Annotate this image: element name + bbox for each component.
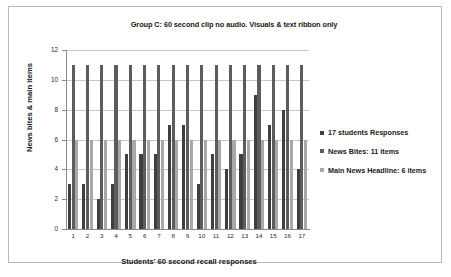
plot-area (66, 50, 309, 229)
bar (143, 65, 146, 229)
x-tick-label: 7 (152, 233, 166, 239)
bar (232, 140, 235, 230)
y-axis-title: News bites & main items (25, 38, 34, 178)
bar (132, 140, 135, 230)
bar (147, 140, 150, 230)
bar-group (180, 50, 194, 229)
bar (100, 65, 103, 229)
bar (68, 184, 71, 229)
y-tick-label: 2 (42, 196, 58, 202)
bar (254, 95, 257, 229)
bar-group (80, 50, 94, 229)
bar (190, 140, 193, 230)
bar (104, 140, 107, 230)
chart-frame: Group C: 60 second clip no audio. Visual… (8, 6, 442, 263)
bar-group (195, 50, 209, 229)
legend-item[interactable]: News Bites: 11 items (320, 148, 445, 156)
bar-group (266, 50, 280, 229)
bar (200, 65, 203, 229)
x-tick-label: 5 (123, 233, 137, 239)
bar (268, 125, 271, 229)
bar (204, 140, 207, 230)
y-axis-line (66, 50, 67, 230)
bar (282, 110, 285, 229)
bar (304, 140, 307, 230)
x-tick-label: 4 (109, 233, 123, 239)
x-axis-title: Students' 60 second recall responses (69, 257, 309, 266)
bar (72, 65, 75, 229)
bar-group (295, 50, 309, 229)
legend-item[interactable]: Main News Headline: 6 items (320, 167, 445, 175)
bar (86, 65, 89, 229)
bar (225, 169, 228, 229)
bar (186, 65, 189, 229)
bar (114, 65, 117, 229)
bar (297, 169, 300, 229)
legend-label: 17 students Responses (328, 129, 408, 137)
chart-title: Group C: 60 second clip no audio. Visual… (69, 20, 399, 29)
bar (197, 184, 200, 229)
bar (229, 65, 232, 229)
y-tick-label: 6 (42, 137, 58, 143)
x-tick-label: 15 (266, 233, 280, 239)
bar (125, 154, 128, 229)
chart-legend: 17 students ResponsesNews Bites: 11 item… (320, 129, 445, 186)
bar-group (137, 50, 151, 229)
bar (82, 184, 85, 229)
legend-swatch-icon (320, 168, 324, 172)
x-tick-label: 9 (180, 233, 194, 239)
bar-group (280, 50, 294, 229)
bar (75, 140, 78, 230)
bar (272, 65, 275, 229)
y-tick-label: 12 (42, 47, 58, 53)
bar-group (66, 50, 80, 229)
y-tick-label: 8 (42, 107, 58, 113)
bar (239, 154, 242, 229)
y-tick-label: 10 (42, 77, 58, 83)
x-tick-label: 16 (280, 233, 294, 239)
y-tick-label: 0 (42, 226, 58, 232)
bar (161, 140, 164, 230)
bar-group (223, 50, 237, 229)
x-tick-label: 14 (252, 233, 266, 239)
bar (257, 65, 260, 229)
bar-group (166, 50, 180, 229)
bar (290, 140, 293, 230)
bar (111, 184, 114, 229)
bar (175, 140, 178, 230)
bar (218, 140, 221, 230)
legend-label: News Bites: 11 items (328, 148, 399, 156)
bar (129, 65, 132, 229)
x-tick-label: 3 (95, 233, 109, 239)
bar (172, 65, 175, 229)
x-tick-label: 17 (295, 233, 309, 239)
x-tick-label: 6 (137, 233, 151, 239)
bar (168, 125, 171, 229)
bar (182, 125, 185, 229)
bar (215, 65, 218, 229)
bar (157, 65, 160, 229)
x-tick-label: 10 (195, 233, 209, 239)
bar-group (238, 50, 252, 229)
legend-label: Main News Headline: 6 items (328, 167, 426, 175)
legend-swatch-icon (320, 131, 324, 135)
y-tick-label: 4 (42, 166, 58, 172)
bar (261, 140, 264, 230)
bar (300, 65, 303, 229)
x-tick-label: 12 (223, 233, 237, 239)
bar (90, 140, 93, 230)
x-tick-label: 8 (166, 233, 180, 239)
bar-group (152, 50, 166, 229)
legend-item[interactable]: 17 students Responses (320, 129, 445, 137)
bar (247, 140, 250, 230)
bar (211, 154, 214, 229)
bar-group (123, 50, 137, 229)
x-tick-label: 13 (238, 233, 252, 239)
bar (243, 65, 246, 229)
x-tick-label: 1 (66, 233, 80, 239)
bar (139, 154, 142, 229)
x-axis-line (66, 229, 310, 230)
legend-swatch-icon (320, 149, 324, 153)
bar (118, 140, 121, 230)
x-tick-label: 2 (80, 233, 94, 239)
